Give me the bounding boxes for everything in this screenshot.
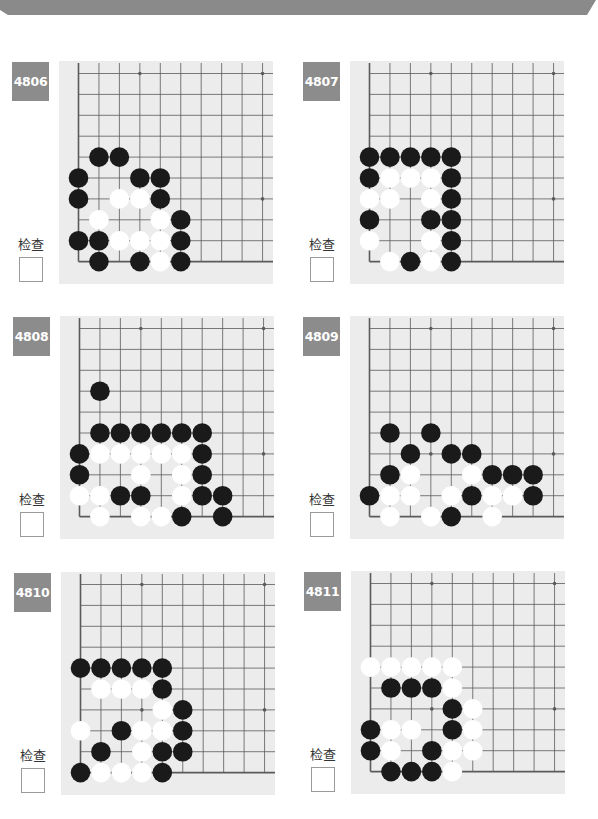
black-stone-icon bbox=[132, 658, 152, 678]
star-point-icon bbox=[430, 582, 434, 586]
check-label: 检查 bbox=[304, 744, 342, 763]
black-stone-icon bbox=[442, 507, 462, 527]
star-point-icon bbox=[140, 583, 144, 587]
white-stone-icon bbox=[401, 465, 421, 485]
puzzle-card-4808: 4808 检查 bbox=[13, 316, 303, 561]
white-stone-icon bbox=[152, 444, 172, 464]
black-stone-icon bbox=[401, 147, 421, 167]
white-stone-icon bbox=[153, 700, 173, 720]
go-board-4806[interactable] bbox=[59, 61, 273, 284]
white-stone-icon bbox=[360, 189, 380, 209]
black-stone-icon bbox=[112, 658, 132, 678]
check-label: 检查 bbox=[14, 745, 52, 764]
black-stone-icon bbox=[422, 741, 442, 761]
check-checkbox-4811[interactable] bbox=[311, 767, 335, 792]
problem-number-badge: 4809 bbox=[303, 317, 340, 356]
white-stone-icon bbox=[70, 486, 90, 506]
go-board-4809[interactable] bbox=[350, 316, 564, 539]
black-stone-icon bbox=[380, 465, 400, 485]
black-stone-icon bbox=[70, 444, 90, 464]
black-stone-icon bbox=[172, 423, 192, 443]
black-stone-icon bbox=[380, 423, 400, 443]
white-stone-icon bbox=[90, 507, 110, 527]
black-stone-icon bbox=[402, 678, 422, 698]
black-stone-icon bbox=[192, 486, 212, 506]
white-stone-icon bbox=[401, 486, 421, 506]
black-stone-icon bbox=[131, 486, 151, 506]
black-stone-icon bbox=[360, 210, 380, 230]
black-stone-icon bbox=[523, 486, 543, 506]
white-stone-icon bbox=[90, 486, 110, 506]
star-point-icon bbox=[430, 707, 434, 711]
white-stone-icon bbox=[112, 763, 132, 783]
white-stone-icon bbox=[421, 189, 441, 209]
star-point-icon bbox=[139, 327, 143, 331]
black-stone-icon bbox=[192, 444, 212, 464]
black-stone-icon bbox=[90, 423, 110, 443]
black-stone-icon bbox=[171, 210, 191, 230]
black-stone-icon bbox=[381, 678, 401, 698]
white-stone-icon bbox=[380, 168, 400, 188]
star-point-icon bbox=[552, 452, 556, 456]
white-stone-icon bbox=[89, 210, 109, 230]
black-stone-icon bbox=[71, 763, 91, 783]
white-stone-icon bbox=[172, 444, 192, 464]
white-stone-icon bbox=[132, 742, 152, 762]
white-stone-icon bbox=[482, 507, 502, 527]
white-stone-icon bbox=[443, 678, 463, 698]
black-stone-icon bbox=[192, 465, 212, 485]
black-stone-icon bbox=[110, 147, 130, 167]
board-grid bbox=[61, 572, 275, 795]
black-stone-icon bbox=[112, 721, 132, 741]
black-stone-icon bbox=[462, 444, 482, 464]
white-stone-icon bbox=[503, 486, 523, 506]
check-checkbox-4807[interactable] bbox=[310, 257, 334, 282]
black-stone-icon bbox=[213, 486, 233, 506]
white-stone-icon bbox=[463, 720, 483, 740]
white-stone-icon bbox=[361, 657, 381, 677]
board-grid bbox=[350, 316, 564, 539]
black-stone-icon bbox=[91, 658, 111, 678]
white-stone-icon bbox=[422, 657, 442, 677]
white-stone-icon bbox=[130, 189, 150, 209]
black-stone-icon bbox=[90, 381, 110, 401]
white-stone-icon bbox=[421, 507, 441, 527]
star-point-icon bbox=[263, 583, 267, 587]
star-point-icon bbox=[552, 72, 556, 76]
black-stone-icon bbox=[381, 762, 401, 782]
check-checkbox-4806[interactable] bbox=[19, 257, 43, 282]
black-stone-icon bbox=[153, 763, 173, 783]
black-stone-icon bbox=[173, 721, 193, 741]
white-stone-icon bbox=[151, 231, 171, 251]
white-stone-icon bbox=[463, 741, 483, 761]
problem-number-badge: 4808 bbox=[13, 317, 50, 356]
go-board-4810[interactable] bbox=[61, 572, 275, 795]
black-stone-icon bbox=[213, 507, 233, 527]
go-board-4808[interactable] bbox=[60, 316, 274, 539]
check-checkbox-4809[interactable] bbox=[310, 512, 334, 537]
check-checkbox-4810[interactable] bbox=[21, 768, 45, 793]
white-stone-icon bbox=[130, 231, 150, 251]
black-stone-icon bbox=[422, 762, 442, 782]
white-stone-icon bbox=[482, 486, 502, 506]
check-checkbox-4808[interactable] bbox=[20, 512, 44, 537]
white-stone-icon bbox=[402, 657, 422, 677]
black-stone-icon bbox=[70, 465, 90, 485]
white-stone-icon bbox=[151, 210, 171, 230]
star-point-icon bbox=[429, 452, 433, 456]
black-stone-icon bbox=[402, 762, 422, 782]
black-stone-icon bbox=[130, 252, 150, 272]
header-bar bbox=[0, 0, 598, 16]
go-board-4807[interactable] bbox=[350, 61, 564, 284]
black-stone-icon bbox=[192, 423, 212, 443]
go-board-4811[interactable] bbox=[351, 571, 565, 794]
puzzle-card-4807: 4807 检查 bbox=[303, 61, 593, 306]
star-point-icon bbox=[262, 452, 266, 456]
white-stone-icon bbox=[71, 721, 91, 741]
white-stone-icon bbox=[360, 231, 380, 251]
white-stone-icon bbox=[110, 231, 130, 251]
white-stone-icon bbox=[443, 657, 463, 677]
black-stone-icon bbox=[131, 423, 151, 443]
star-point-icon bbox=[552, 327, 556, 331]
white-stone-icon bbox=[380, 189, 400, 209]
